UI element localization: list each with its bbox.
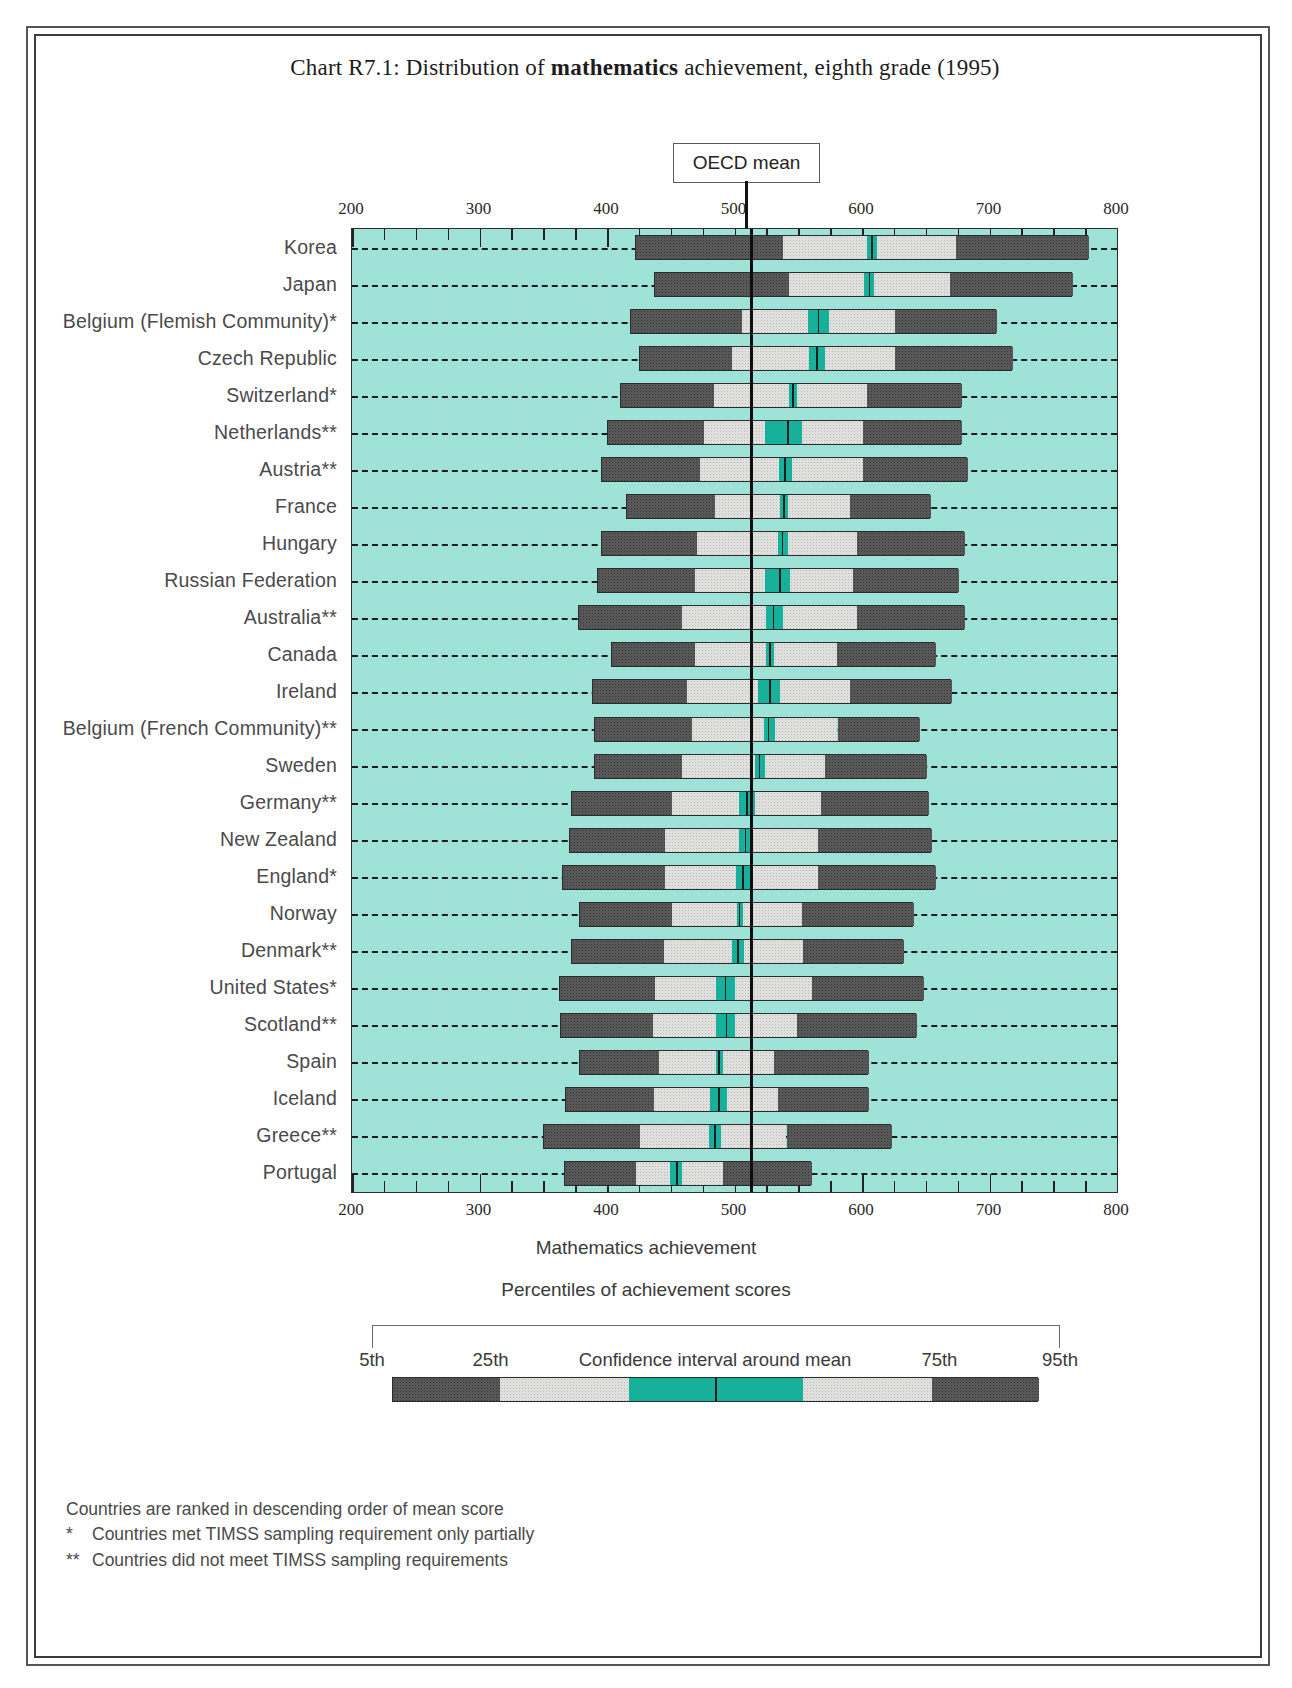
country-label: Greece** (256, 1124, 337, 1147)
segment-ci-upper (788, 421, 802, 444)
distribution-bar (564, 1161, 811, 1186)
x-tick-label-top: 600 (848, 199, 874, 219)
country-label: New Zealand (220, 828, 337, 851)
segment-p25-cilow (704, 421, 765, 444)
legend-label: 75th (921, 1349, 957, 1371)
segment-p25-cilow (655, 977, 716, 1000)
footnote-marker: * (66, 1522, 92, 1547)
segment-cihigh-p75 (752, 829, 818, 852)
segment-p75-p95 (850, 680, 952, 703)
footnote-marker: ** (66, 1548, 92, 1573)
distribution-bar (597, 568, 958, 593)
segment-p5-p25 (640, 347, 732, 370)
segment-p25-cilow (665, 866, 735, 889)
country-label: France (275, 494, 337, 517)
x-tick-top (416, 229, 418, 240)
segment-p25-cilow (783, 236, 867, 259)
mean-marker (745, 829, 747, 852)
country-label: Germany** (240, 791, 337, 814)
legend-label: 5th (359, 1349, 385, 1371)
segment-ci-upper (725, 977, 735, 1000)
mean-marker (784, 458, 786, 481)
oecd-mean-stem (745, 181, 748, 228)
footnotes: Countries are ranked in descending order… (66, 1497, 766, 1573)
segment-ci-lower (765, 569, 780, 592)
distribution-bar (630, 309, 996, 334)
distribution-bar (639, 346, 1013, 371)
country-label: Australia** (244, 605, 337, 628)
segment-p75-p95 (778, 1088, 870, 1111)
mean-marker (782, 532, 784, 555)
legend-mean-marker (715, 1378, 717, 1401)
x-tick-bottom (958, 1181, 960, 1192)
segment-p75-p95 (863, 458, 968, 481)
mean-marker (818, 310, 820, 333)
segment-p75-p95 (850, 495, 930, 518)
segment-p5-p25 (566, 1088, 654, 1111)
x-tick-bottom (894, 1181, 896, 1192)
distribution-bar (559, 976, 924, 1001)
segment-p75-p95 (821, 792, 929, 815)
x-axis-title: Mathematics achievement (0, 1237, 1292, 1259)
footnote-text: Countries are ranked in descending order… (66, 1497, 504, 1522)
x-tick-bottom (926, 1181, 928, 1192)
segment-cihigh-p75 (790, 569, 852, 592)
mean-marker (869, 273, 871, 296)
x-tick-bottom (1053, 1181, 1055, 1192)
footnote-text: Countries did not meet TIMSS sampling re… (92, 1548, 508, 1573)
footnote-row: Countries are ranked in descending order… (66, 1497, 766, 1522)
segment-p75-p95 (818, 866, 935, 889)
segment-p75-p95 (950, 273, 1074, 296)
distribution-bar (611, 642, 935, 667)
mean-marker (779, 569, 781, 592)
footnote-row: *Countries met TIMSS sampling requiremen… (66, 1522, 766, 1547)
segment-cihigh-p75 (797, 384, 867, 407)
segment-p75-p95 (838, 718, 921, 741)
x-tick-label-bottom: 500 (721, 1200, 747, 1220)
distribution-bar (571, 939, 903, 964)
country-label: Russian Federation (164, 568, 337, 591)
segment-p5-p25 (595, 718, 692, 741)
segment-p25-cilow (692, 718, 763, 741)
segment-p5-p25 (579, 606, 682, 629)
x-tick-label-top: 200 (338, 199, 364, 219)
mean-marker (816, 347, 818, 370)
distribution-bar (560, 1013, 916, 1038)
distribution-bar (594, 754, 926, 779)
segment-p5-p25 (544, 1125, 640, 1148)
segment-p5-p25 (561, 1014, 653, 1037)
x-tick-label-top: 400 (593, 199, 619, 219)
x-tick-label-top: 700 (976, 199, 1002, 219)
segment-p25-cilow (672, 792, 740, 815)
segment-cihigh-p75 (877, 236, 956, 259)
segment-p25-cilow (665, 829, 739, 852)
distribution-bar (579, 1050, 868, 1075)
x-tick-label-bottom: 400 (593, 1200, 619, 1220)
x-tick-bottom (480, 1174, 482, 1192)
country-label: Iceland (273, 1087, 337, 1110)
segment-cihigh-p75 (780, 680, 850, 703)
country-label: Canada (267, 642, 337, 665)
segment-p75-p95 (787, 1125, 893, 1148)
country-label: Switzerland* (226, 383, 337, 406)
segment-p25-cilow (654, 1088, 710, 1111)
x-tick-top (384, 229, 386, 240)
country-label: Netherlands** (214, 420, 337, 443)
x-tick-label-bottom: 700 (976, 1200, 1002, 1220)
segment-p25-cilow (682, 755, 755, 778)
mean-marker (718, 1051, 720, 1074)
segment-p5-p25 (602, 532, 698, 555)
segment-cihigh-p75 (735, 977, 812, 1000)
country-label: Portugal (263, 1161, 337, 1184)
segment-p75-p95 (857, 532, 965, 555)
segment-p5-p25 (560, 977, 656, 1000)
x-tick-top (607, 229, 609, 247)
mean-marker (742, 866, 744, 889)
segment-cihigh-p75 (723, 1051, 774, 1074)
mean-marker (746, 792, 748, 815)
segment-ci-upper (817, 347, 825, 370)
segment-p25-cilow (715, 495, 780, 518)
distribution-bar (562, 865, 934, 890)
mean-marker (725, 977, 727, 1000)
legend-segment-p5-p25 (393, 1378, 500, 1401)
